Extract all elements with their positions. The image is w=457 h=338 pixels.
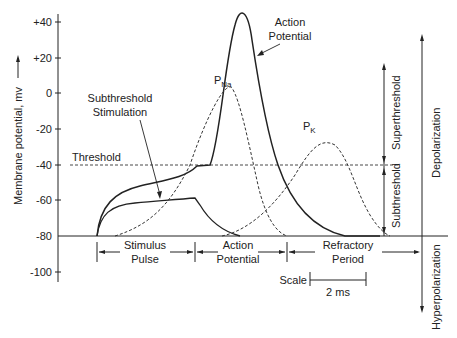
- phase-label: Refractory: [323, 239, 374, 251]
- subthreshold-stimulation-label: Subthreshold: [88, 92, 153, 104]
- phase-label: Potential: [217, 253, 260, 265]
- p-k-curve: [222, 143, 390, 236]
- tick-label: +40: [33, 16, 52, 28]
- threshold-range-arrows: Superthreshold Subthreshold: [382, 63, 402, 236]
- threshold-label: Threshold: [72, 151, 121, 163]
- subthreshold-stimulation-label: Stimulation: [93, 106, 147, 118]
- scale-bar: Scale 2 ms: [279, 272, 366, 298]
- polarization-arrows: Depolarization Hyperpolarization: [420, 34, 442, 330]
- p-na-label: PNa: [214, 74, 232, 89]
- scale-value: 2 ms: [326, 286, 350, 298]
- tick-label: -20: [36, 123, 52, 135]
- tick-label: -80: [36, 230, 52, 242]
- y-axis-label: Membrane potential, mv: [12, 87, 24, 205]
- tick-label: +20: [33, 52, 52, 64]
- hyperpolarization-label: Hyperpolarization: [430, 244, 442, 330]
- tick-label: -60: [36, 194, 52, 206]
- subthreshold-curve: [97, 198, 240, 236]
- phase-label: Pulse: [131, 253, 159, 265]
- tick-label: -40: [36, 159, 52, 171]
- action-potential-label: Action: [275, 16, 306, 28]
- superthreshold-label: Superthreshold: [390, 75, 402, 150]
- depolarization-label: Depolarization: [430, 108, 442, 178]
- p-k-label: PK: [303, 120, 316, 135]
- action-potential-label: Potential: [269, 30, 312, 42]
- subthreshold-label: Subthreshold: [390, 163, 402, 228]
- phase-label: Action: [223, 239, 254, 251]
- phase-label: Stimulus: [124, 239, 167, 251]
- phase-label: Period: [332, 253, 364, 265]
- action-potential-diagram: +40 +20 0 -20 -40 -60 -80 -100 Membrane …: [0, 0, 457, 338]
- scale-label: Scale: [279, 274, 307, 286]
- y-axis: +40 +20 0 -20 -40 -60 -80 -100 Membrane …: [12, 14, 61, 282]
- tick-label: 0: [46, 87, 52, 99]
- tick-label: -100: [30, 266, 52, 278]
